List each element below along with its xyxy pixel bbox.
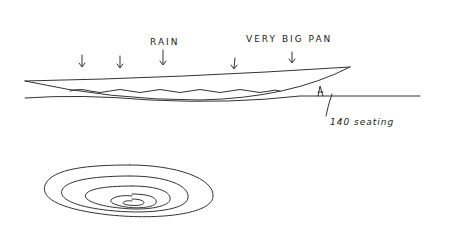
rain-label: RAIN (150, 37, 179, 47)
seating-label: 140 seating (330, 117, 394, 127)
rain-arrows (79, 50, 295, 69)
spiral-drawing (44, 165, 213, 217)
pan-label: VERY BIG PAN (246, 34, 332, 44)
pan-drawing (25, 67, 420, 116)
